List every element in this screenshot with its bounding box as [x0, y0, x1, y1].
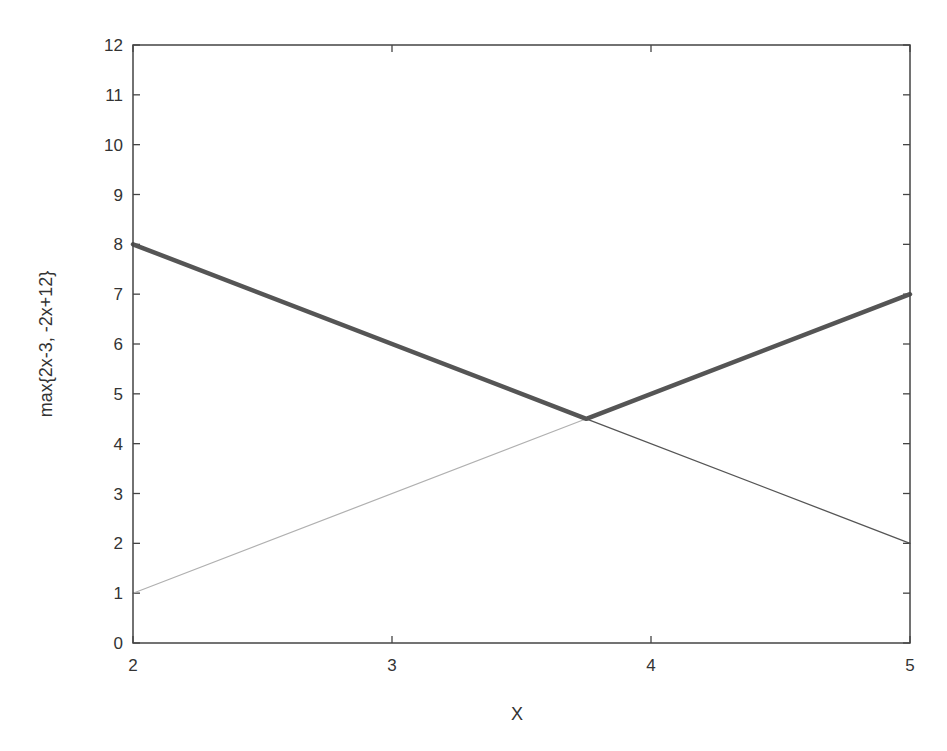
x-tick-label: 2: [128, 656, 137, 675]
y-axis-label: max{2x-3, -2x+12}: [36, 271, 56, 418]
line-chart: 0123456789101112 2345 X max{2x-3, -2x+12…: [0, 0, 947, 751]
x-tick-label: 4: [646, 656, 655, 675]
x-tick-label: 3: [387, 656, 396, 675]
y-tick-label: 1: [114, 584, 123, 603]
y-tick-label: 11: [105, 86, 123, 105]
y-tick-label: 4: [114, 435, 123, 454]
x-tick-label: 5: [905, 656, 914, 675]
y-tick-label: 6: [114, 335, 123, 354]
y-tick-label: 10: [104, 136, 123, 155]
y-tick-label: 5: [114, 385, 123, 404]
y-tick-label: 9: [114, 186, 123, 205]
y-tick-label: 2: [114, 534, 123, 553]
y-tick-label: 0: [114, 634, 123, 653]
y-tick-label: 3: [114, 485, 123, 504]
y-tick-label: 7: [114, 285, 123, 304]
y-tick-label: 8: [114, 235, 123, 254]
x-axis-label: X: [511, 704, 523, 724]
y-tick-label: 12: [104, 36, 123, 55]
